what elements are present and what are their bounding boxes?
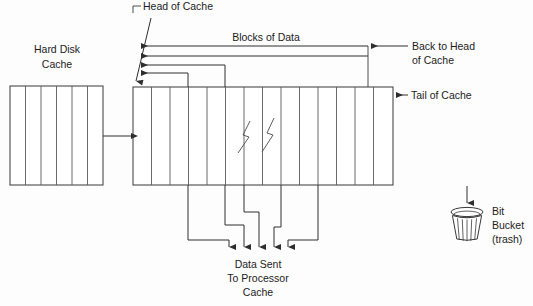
tail-of-cache-label: Tail of Cache [411, 89, 472, 101]
bit-bucket-label-line2: Bucket [492, 219, 524, 231]
cache-diagram: Head of Cache Blocks of Data Back to Hea… [0, 0, 533, 306]
trash-can-icon [451, 207, 483, 241]
bit-bucket-label-line3: (trash) [492, 233, 522, 245]
processor-output-arrows [188, 185, 318, 247]
hard-disk-cache-label-line2: Cache [42, 58, 73, 70]
back-to-head-label-line2: of Cache [412, 54, 454, 66]
data-sent-label-line2: To Processor [227, 272, 289, 284]
hard-disk-cache-box [10, 86, 103, 185]
recirculation-arrows [141, 46, 368, 87]
data-sent-label-line3: Cache [243, 286, 274, 298]
data-sent-label-line1: Data Sent [235, 258, 282, 270]
back-to-head-label-line1: Back to Head [412, 40, 475, 52]
diagram-canvas: Head of Cache Blocks of Data Back to Hea… [0, 0, 533, 306]
main-cache-box [133, 87, 393, 185]
back-to-head-connector [368, 46, 408, 87]
head-of-cache-leader [133, 6, 151, 81]
blocks-of-data-label: Blocks of Data [232, 31, 300, 43]
bit-bucket-label-line1: Bit [492, 205, 504, 217]
head-of-cache-label: Head of Cache [143, 0, 213, 12]
hard-disk-cache-label-line1: Hard Disk [34, 43, 81, 55]
